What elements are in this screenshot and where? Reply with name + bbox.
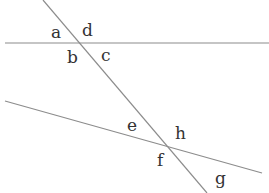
angle-label-e: e <box>127 117 137 134</box>
lower-line <box>5 101 262 173</box>
angle-label-a: a <box>51 24 61 41</box>
angle-label-g: g <box>215 170 226 187</box>
angle-label-d: d <box>82 22 93 39</box>
angle-label-f: f <box>157 152 163 169</box>
angle-label-b: b <box>67 49 78 66</box>
transversal-line <box>43 0 207 193</box>
lines-layer <box>0 0 269 193</box>
angle-label-c: c <box>101 47 111 64</box>
angle-label-h: h <box>175 125 186 142</box>
diagram-canvas: a d b c e h f g <box>0 0 269 193</box>
